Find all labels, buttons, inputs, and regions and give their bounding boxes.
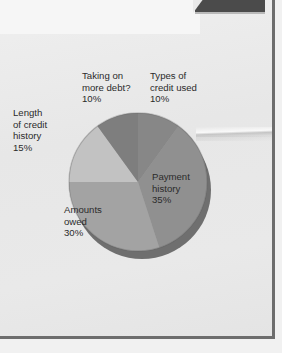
pie-label-types-of-credit-used: Types of credit used 10% [150,70,197,105]
credit-score-pie-chart: Taking on more debt? 10% Types of credit… [0,0,276,338]
page-outside-right [275,0,282,353]
scanned-page: Taking on more debt? 10% Types of credit… [0,0,282,353]
pie-label-taking-on-more-debt: Taking on more debt? 10% [82,70,131,105]
page-outside-bottom [0,339,282,353]
pie-label-amounts-owed: Amounts owed 30% [64,204,102,239]
pie-label-payment-history: Payment history 35% [152,171,190,206]
pie-label-length-of-credit-history: Length of credit history 15% [13,107,47,153]
